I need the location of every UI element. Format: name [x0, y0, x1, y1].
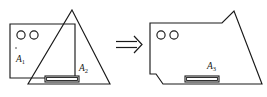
figure-root: A1 A2	[0, 0, 267, 97]
shape-triangle-a2: A2	[28, 10, 110, 84]
hole-icon	[170, 31, 178, 39]
slot-inner	[47, 78, 78, 81]
shape-rectangle-a1: A1	[10, 24, 75, 78]
union-a3-outline	[150, 11, 262, 84]
shape-union-a3: A3	[150, 11, 262, 84]
speck-marker	[15, 47, 17, 49]
label-a3-subscript: 3	[213, 65, 216, 72]
hole-icon	[30, 31, 38, 39]
slot-inner	[187, 78, 218, 81]
label-a2: A2	[78, 63, 88, 74]
implies-arrow-icon	[116, 36, 142, 53]
label-a3: A3	[206, 61, 216, 72]
shape-union-diagram: A1 A2	[0, 0, 267, 97]
left-panel-operands: A1 A2	[10, 10, 110, 84]
hole-icon	[157, 31, 165, 39]
label-a2-subscript: 2	[85, 67, 88, 74]
triangle-a2-outline	[28, 10, 110, 84]
arrow-head	[134, 36, 142, 53]
label-a1: A1	[15, 54, 25, 65]
hole-icon	[17, 31, 25, 39]
right-panel-result: A3	[150, 11, 262, 84]
label-a1-subscript: 1	[22, 58, 25, 65]
